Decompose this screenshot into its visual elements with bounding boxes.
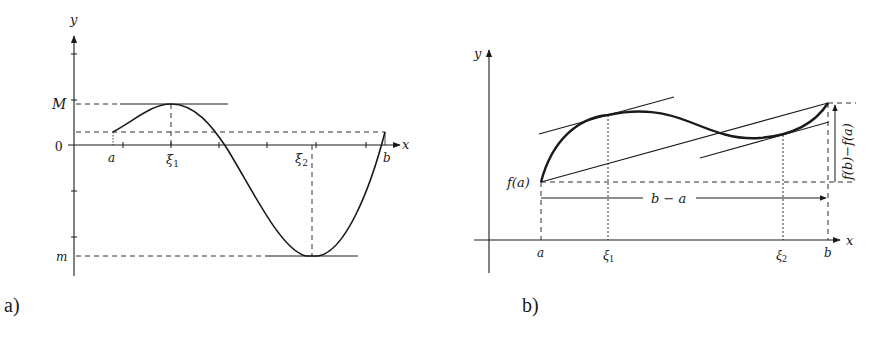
panel-a-labels: y x M 0 m a ξ1 ξ2 b a) — [4, 12, 410, 317]
label-a: a — [108, 151, 115, 165]
label-rise: f(b)−f(a) — [840, 123, 855, 181]
label-b: b — [383, 151, 391, 165]
panel-a-x-label: x — [402, 137, 410, 152]
label-a: a — [537, 246, 544, 260]
figure-canvas: y x M 0 m a ξ1 ξ2 b a) — [0, 0, 889, 340]
panel-b-x-label: x — [846, 233, 854, 248]
panel-b-labels: y x f(a) b − a a ξ1 ξ2 b f(b)−f(a) b) — [473, 46, 855, 317]
panel-a-function-curve — [113, 104, 385, 256]
label-fa: f(a) — [506, 175, 530, 190]
panel-a-caption: a) — [4, 294, 20, 317]
label-m: m — [56, 250, 67, 264]
panel-b-dotted-guides — [608, 115, 783, 240]
label-span: b − a — [651, 191, 686, 206]
panel-a-diagram — [68, 36, 400, 276]
label-xi1: ξ1 — [166, 152, 179, 169]
tangent-at-xi2 — [700, 122, 829, 158]
label-M: M — [51, 96, 67, 112]
label-xi1: ξ1 — [603, 248, 614, 264]
label-b: b — [824, 246, 832, 260]
panel-b-caption: b) — [522, 294, 539, 317]
label-xi2: ξ2 — [295, 151, 308, 168]
secant-line — [541, 103, 828, 182]
panel-b-diagram — [474, 50, 856, 273]
panel-a-y-label: y — [69, 12, 78, 27]
panel-b-y-label: y — [473, 46, 482, 61]
label-xi2: ξ2 — [776, 248, 787, 264]
label-zero: 0 — [55, 138, 63, 154]
